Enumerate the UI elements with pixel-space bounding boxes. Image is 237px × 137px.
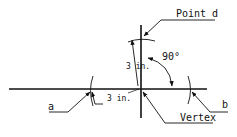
perpendicular-construction-diagram: Point d Vertex a b 90° 3 in. 3 in. <box>0 0 237 137</box>
label-dim-horizontal: 3 in. <box>107 94 131 103</box>
point-d-leader <box>144 20 215 36</box>
label-a: a <box>48 101 54 112</box>
arc-b <box>188 76 191 104</box>
horizontal-radius-leader <box>92 92 103 104</box>
label-angle: 90° <box>162 51 180 62</box>
label-point-d: Point d <box>176 8 218 19</box>
right-angle-arc <box>148 58 172 86</box>
arc-a <box>91 76 94 106</box>
label-dim-vertical: 3 in. <box>126 62 150 71</box>
a-leader <box>49 92 90 112</box>
label-vertex: Vertex <box>180 112 216 123</box>
label-b: b <box>222 99 228 110</box>
